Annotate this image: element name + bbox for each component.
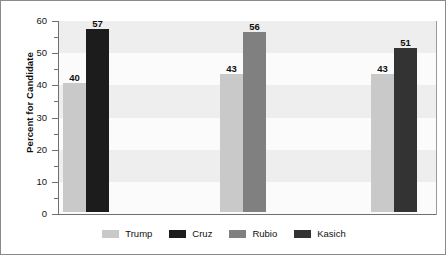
legend-swatch-icon bbox=[102, 230, 119, 238]
bar-value-label: 40 bbox=[63, 73, 86, 83]
bar-cruz bbox=[86, 29, 109, 212]
bar-value-label: 43 bbox=[371, 64, 394, 74]
bar-rubio bbox=[243, 32, 266, 212]
legend-item-trump[interactable]: Trump bbox=[102, 229, 152, 239]
y-tick-major bbox=[52, 214, 58, 215]
legend-swatch-icon bbox=[229, 230, 246, 238]
y-tick-minor bbox=[54, 37, 58, 38]
bar-trump bbox=[220, 74, 243, 212]
legend-label: Kasich bbox=[317, 229, 346, 239]
y-tick-major bbox=[52, 118, 58, 119]
y-axis-line bbox=[58, 21, 59, 215]
bar-kasich bbox=[394, 48, 417, 212]
bar-trump bbox=[371, 74, 394, 212]
chart-legend: TrumpCruzRubioKasich bbox=[1, 229, 446, 239]
y-tick-major bbox=[52, 21, 58, 22]
legend-item-rubio[interactable]: Rubio bbox=[229, 229, 277, 239]
bar-value-label: 57 bbox=[86, 19, 109, 29]
legend-swatch-icon bbox=[294, 230, 311, 238]
y-tick-minor bbox=[54, 101, 58, 102]
legend-item-kasich[interactable]: Kasich bbox=[294, 229, 346, 239]
bar-value-label: 56 bbox=[243, 22, 266, 32]
y-tick-minor bbox=[54, 134, 58, 135]
bar-value-label: 51 bbox=[394, 38, 417, 48]
bar-trump bbox=[63, 83, 86, 212]
legend-swatch-icon bbox=[169, 230, 186, 238]
y-tick-major bbox=[52, 150, 58, 151]
y-tick-major bbox=[52, 85, 58, 86]
y-tick-major bbox=[52, 182, 58, 183]
legend-item-cruz[interactable]: Cruz bbox=[169, 229, 212, 239]
y-tick-minor bbox=[54, 198, 58, 199]
y-axis-title: Percent for Candidate bbox=[24, 13, 35, 193]
bar-chart-figure: 0102030405060 Percent for Candidate 4057… bbox=[0, 0, 446, 255]
legend-label: Trump bbox=[125, 229, 152, 239]
legend-label: Rubio bbox=[252, 229, 277, 239]
bar-value-label: 43 bbox=[220, 64, 243, 74]
y-tick-minor bbox=[54, 69, 58, 70]
legend-label: Cruz bbox=[192, 229, 212, 239]
x-axis-line bbox=[58, 214, 437, 215]
y-tick-major bbox=[52, 53, 58, 54]
plot-right-border bbox=[436, 21, 437, 215]
y-tick-minor bbox=[54, 166, 58, 167]
y-tick-label: 0 bbox=[1, 209, 47, 219]
